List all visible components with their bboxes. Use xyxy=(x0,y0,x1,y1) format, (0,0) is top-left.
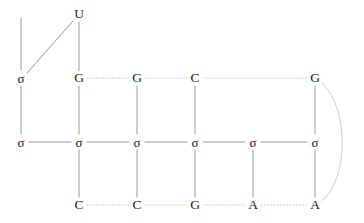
node-apex-u: U xyxy=(73,7,85,21)
edge-u-to-sigma-diagonal xyxy=(27,21,73,73)
node-top-5: G xyxy=(309,71,321,85)
node-bot-4: A xyxy=(247,198,259,212)
node-bot-5: A xyxy=(309,198,321,212)
rna-lattice-diagram: UσGGCGσσσσσσCCGAA xyxy=(0,0,364,223)
node-mid-1: σ xyxy=(74,136,83,149)
node-top-1: G xyxy=(73,71,85,85)
node-mid-0: σ xyxy=(16,136,25,149)
node-bot-2: C xyxy=(131,198,142,212)
node-bot-3: G xyxy=(189,198,201,212)
edge-arc-g-to-a xyxy=(322,83,342,201)
node-bot-1: C xyxy=(73,198,84,212)
node-top-2: G xyxy=(131,71,143,85)
graph-edges-svg xyxy=(0,0,364,223)
node-top-0: σ xyxy=(16,72,25,85)
node-mid-5: σ xyxy=(310,136,319,149)
node-mid-4: σ xyxy=(248,136,257,149)
node-mid-3: σ xyxy=(190,136,199,149)
node-top-3: C xyxy=(189,71,200,85)
node-mid-2: σ xyxy=(132,136,141,149)
solid-edge-group xyxy=(21,18,315,197)
arc-edge-group xyxy=(322,83,342,201)
